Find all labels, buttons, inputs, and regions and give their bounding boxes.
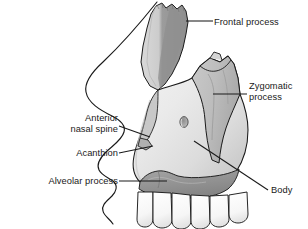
label-zygomatic-process-line2: process <box>249 92 282 102</box>
label-zygomatic-process-line1: Zygomatic <box>249 81 292 91</box>
frontal-process-region <box>141 3 188 90</box>
label-anterior-nasal-spine-line1: Anterior <box>85 113 118 123</box>
label-alveolar-process: Alveolar process <box>48 176 118 187</box>
label-anterior-nasal-spine: Anteriornasal spine <box>70 113 118 134</box>
label-anterior-nasal-spine-line2: nasal spine <box>70 124 118 134</box>
label-zygomatic-process: Zygomaticprocess <box>249 81 292 102</box>
tooth <box>137 192 153 227</box>
maxilla-illustration <box>0 0 308 229</box>
tooth <box>172 193 191 229</box>
anatomy-figure: Frontal process Zygomaticprocess Anterio… <box>0 0 308 229</box>
label-acanthion: Acanthion <box>76 148 118 159</box>
tooth <box>153 192 172 228</box>
label-body: Body <box>271 185 292 196</box>
tooth <box>229 192 248 223</box>
tooth <box>191 195 210 229</box>
tooth <box>210 195 229 227</box>
label-frontal-process: Frontal process <box>214 17 279 28</box>
teeth-row <box>137 192 248 229</box>
